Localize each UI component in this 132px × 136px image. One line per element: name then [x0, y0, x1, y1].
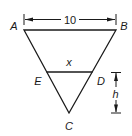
arrowhead-right-icon — [107, 18, 115, 22]
arrowhead-left-icon — [25, 18, 33, 22]
vertex-e-label: E — [34, 75, 42, 87]
arrowhead-down-icon — [114, 105, 118, 113]
vertex-d-label: D — [97, 75, 105, 87]
height-label: h — [112, 88, 118, 100]
vertex-a-label: A — [9, 20, 17, 32]
arrowhead-up-icon — [114, 73, 118, 81]
vertex-c-label: C — [65, 120, 73, 132]
segment-ed-label: x — [65, 56, 72, 68]
triangle-diagram: 10 x A B E D C h — [0, 0, 132, 136]
vertex-b-label: B — [120, 20, 127, 32]
top-dimension: 10 — [24, 14, 116, 26]
width-label: 10 — [64, 14, 76, 26]
height-dimension: h — [111, 73, 121, 114]
